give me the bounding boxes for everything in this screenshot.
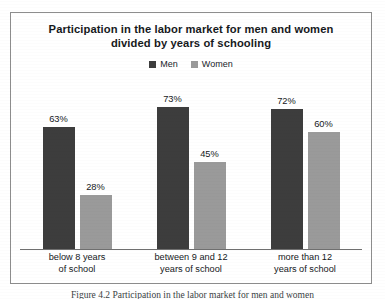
- square-swatch-icon: [149, 61, 156, 68]
- legend-label-men: Men: [160, 59, 178, 69]
- bar-women-1: [194, 162, 226, 250]
- bar-men-2: [271, 109, 303, 249]
- category-label-below-8-years: below 8 years of school: [20, 252, 134, 275]
- bar-group-more-than-12-years: 72% 60%: [248, 81, 362, 249]
- bar-wrap-men-1: 73%: [157, 81, 189, 249]
- category-label-line-2: years of school: [248, 264, 362, 276]
- bar-men-0: [43, 127, 75, 250]
- legend-label-women: Women: [202, 59, 233, 69]
- chart-title-line-1: Participation in the labor market for me…: [25, 22, 357, 36]
- chart-frame: Participation in the labor market for me…: [10, 12, 372, 284]
- bar-value-men-1: 73%: [163, 94, 182, 105]
- x-axis-line: [20, 249, 362, 250]
- chart-legend: Men Women: [11, 59, 371, 69]
- bar-value-men-0: 63%: [49, 114, 68, 125]
- bar-wrap-men-2: 72%: [271, 81, 303, 249]
- bar-wrap-women-1: 45%: [194, 81, 226, 249]
- chart-title: Participation in the labor market for me…: [11, 13, 371, 50]
- bar-group-between-9-and-12-years: 73% 45%: [134, 81, 248, 249]
- bar-pair: 63% 28%: [20, 81, 134, 249]
- category-label-line-2: years of school: [134, 264, 248, 276]
- bar-men-1: [157, 107, 189, 249]
- category-label-line-1: below 8 years: [20, 252, 134, 264]
- legend-item-women: Women: [191, 59, 233, 69]
- category-label-line-1: between 9 and 12: [134, 252, 248, 264]
- category-label-line-1: more than 12: [248, 252, 362, 264]
- bar-wrap-men-0: 63%: [43, 81, 75, 249]
- bar-wrap-women-2: 60%: [308, 81, 340, 249]
- bar-groups: 63% 28% 73% 45%: [20, 81, 362, 249]
- bar-value-women-2: 60%: [314, 119, 333, 130]
- category-labels: below 8 years of school between 9 and 12…: [20, 252, 362, 275]
- bar-pair: 72% 60%: [248, 81, 362, 249]
- bar-pair: 73% 45%: [134, 81, 248, 249]
- bar-value-women-1: 45%: [200, 149, 219, 160]
- category-label-more-than-12-years: more than 12 years of school: [248, 252, 362, 275]
- square-swatch-icon: [191, 61, 198, 68]
- legend-item-men: Men: [149, 59, 178, 69]
- bar-women-2: [308, 132, 340, 249]
- bar-group-below-8-years: 63% 28%: [20, 81, 134, 249]
- bar-women-0: [80, 195, 112, 250]
- chart-title-line-2: divided by years of schooling: [25, 36, 357, 50]
- bar-wrap-women-0: 28%: [80, 81, 112, 249]
- category-label-line-2: of school: [20, 264, 134, 276]
- category-label-between-9-and-12-years: between 9 and 12 years of school: [134, 252, 248, 275]
- figure-caption: Figure 4.2 Participation in the labor ma…: [0, 290, 385, 299]
- bar-value-women-0: 28%: [86, 182, 105, 193]
- bar-value-men-2: 72%: [277, 96, 296, 107]
- plot-area: 63% 28% 73% 45%: [11, 81, 371, 283]
